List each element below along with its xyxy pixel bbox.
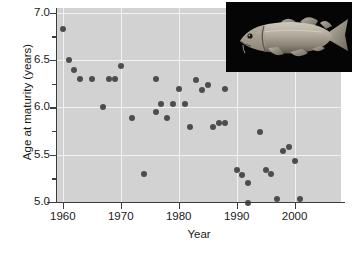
data-point [153,109,159,115]
gridline-vertical [179,8,180,202]
y-axis-tick-label: 7.0 [10,7,50,19]
y-axis-tick-label: 5.5 [10,149,50,161]
data-point [257,129,263,135]
gridline-vertical [121,8,122,202]
data-point [170,101,176,107]
data-point [187,124,193,130]
data-point [77,76,83,82]
data-point [239,172,245,178]
x-axis-tick-label: 1980 [157,211,201,223]
data-point [182,101,188,107]
y-axis-tick [50,107,56,108]
data-point [60,26,66,32]
data-point [118,63,124,69]
data-point [199,87,205,93]
data-point [222,120,228,126]
cod-fish-icon [226,2,352,72]
data-point [268,171,274,177]
data-point [100,104,106,110]
y-axis-tick-label: 6.0 [10,101,50,113]
data-point [234,167,240,173]
y-axis-minor-tick [52,84,56,85]
data-point [176,86,182,92]
data-point [193,77,199,83]
data-point [205,82,211,88]
x-axis-tick [179,203,180,209]
data-point [66,57,72,63]
data-point [210,124,216,130]
y-axis-minor-tick [52,131,56,132]
data-point [89,76,95,82]
data-point [141,171,147,177]
x-axis-tick [295,203,296,209]
x-axis-tick-label: 2000 [273,211,317,223]
data-point [222,86,228,92]
x-axis-tick-label: 1960 [41,211,85,223]
gridline-horizontal [57,155,341,156]
x-axis-tick [63,203,64,209]
data-point [158,101,164,107]
y-axis-tick-label: 6.5 [10,54,50,66]
x-axis-tick [237,203,238,209]
data-point [286,144,292,150]
y-axis-tick [50,202,56,203]
data-point [164,115,170,121]
data-point [280,148,286,154]
y-axis-line [56,8,57,203]
x-axis-tick [121,203,122,209]
y-axis-tick-label: 5.0 [10,196,50,208]
data-point [153,76,159,82]
x-axis-title: Year [57,228,341,240]
y-axis-minor-tick [52,178,56,179]
data-point [292,158,298,164]
y-axis-tick [50,13,56,14]
x-axis-line [47,202,345,203]
data-point [112,76,118,82]
x-axis-tick-label: 1970 [99,211,143,223]
data-point [71,67,77,73]
atlantic-cod-photograph [226,2,352,72]
y-axis-tick [50,60,56,61]
scatter-plot-figure: Age at maturity (years) Year [0,0,352,255]
gridline-vertical [63,8,64,202]
y-axis-minor-tick [52,36,56,37]
x-axis-tick-label: 1990 [215,211,259,223]
data-point [245,180,251,186]
y-axis-tick [50,155,56,156]
data-point [129,115,135,121]
